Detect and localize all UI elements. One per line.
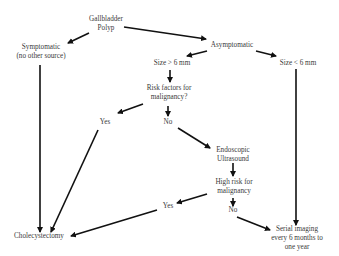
node-yes-1: Yes: [100, 118, 110, 127]
arrow-root-to-symptomatic: [68, 33, 89, 43]
arrow-highrisk-to-yes2: [177, 194, 207, 203]
node-risk-factors: Risk factors for malignancy?: [147, 84, 192, 102]
node-label: No: [229, 206, 238, 215]
arrow-yes2-to-cholecystectomy: [71, 210, 157, 236]
node-gallbladder-polyp: Gallbladder Polyp: [89, 15, 123, 33]
flowchart-edges: [0, 0, 339, 256]
node-label: Size < 6 mm: [280, 59, 317, 68]
node-label: Endoscopic: [216, 146, 250, 155]
node-endoscopic-ultrasound: Endoscopic Ultrasound: [216, 146, 250, 164]
arrow-no1-to-eus: [178, 128, 210, 148]
node-asymptomatic: Asymptomatic: [211, 41, 253, 50]
arrow-no2-to-serial: [237, 217, 270, 230]
node-label: Cholecystectomy: [14, 232, 64, 241]
node-size-lt-6mm: Size < 6 mm: [280, 59, 317, 68]
node-size-gt-6mm: Size > 6 mm: [154, 59, 191, 68]
node-label: Polyp: [89, 24, 123, 33]
node-label: Serial imaging: [271, 225, 323, 234]
node-label: Symptomatic: [16, 43, 65, 52]
arrow-root-to-asymptomatic: [124, 27, 206, 39]
arrow-risk-to-yes1: [118, 104, 143, 113]
node-high-risk: High risk for malignancy: [215, 178, 252, 196]
node-label: Risk factors for: [147, 84, 192, 93]
node-symptomatic: Symptomatic (no other source): [16, 43, 65, 61]
node-label: Yes: [100, 118, 110, 127]
node-yes-2: Yes: [163, 202, 173, 211]
node-no-1: No: [164, 118, 173, 127]
node-label: every 6 months to: [271, 234, 323, 243]
node-label: Asymptomatic: [211, 41, 253, 50]
node-label: High risk for: [215, 178, 252, 187]
arrow-asymptomatic-to-size-gt: [187, 51, 207, 56]
node-label: malignancy: [215, 187, 252, 196]
node-label: Size > 6 mm: [154, 59, 191, 68]
node-label: malignancy?: [147, 93, 192, 102]
node-label: Yes: [163, 202, 173, 211]
node-no-2: No: [229, 206, 238, 215]
arrow-asymptomatic-to-size-lt: [256, 51, 276, 56]
node-label: (no other source): [16, 52, 65, 61]
node-serial-imaging: Serial imaging every 6 months to one yea…: [271, 225, 323, 252]
node-label: No: [164, 118, 173, 127]
node-label: one year: [271, 243, 323, 252]
node-cholecystectomy: Cholecystectomy: [14, 232, 64, 241]
node-label: Gallbladder: [89, 15, 123, 24]
node-label: Ultrasound: [216, 155, 250, 164]
arrow-yes1-to-cholecystectomy: [51, 130, 98, 232]
